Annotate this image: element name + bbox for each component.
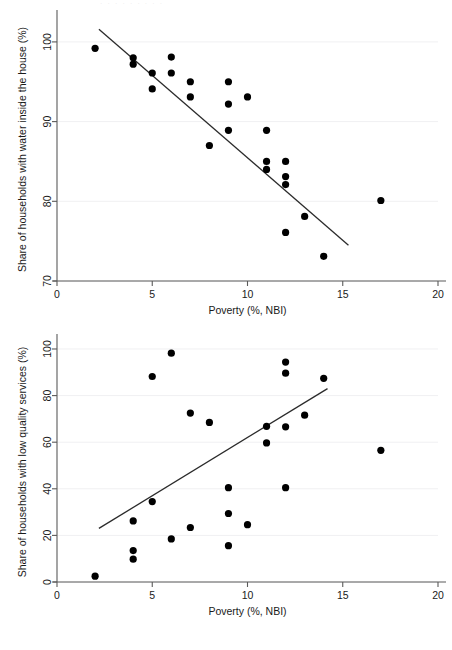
data-point xyxy=(377,197,384,204)
data-point xyxy=(301,412,308,419)
x-tick-label: 15 xyxy=(337,589,349,601)
data-point xyxy=(301,213,308,220)
x-tick-label: 5 xyxy=(149,288,155,300)
y-tick-label: 0 xyxy=(41,579,53,585)
y-axis-title: Share of households with low quality ser… xyxy=(16,347,28,578)
data-point xyxy=(263,127,270,134)
y-tick-label: 90 xyxy=(41,116,53,128)
data-point xyxy=(282,158,289,165)
x-tick-label: 20 xyxy=(432,288,444,300)
y-tick-label: 80 xyxy=(41,195,53,207)
chart-panel-water-inside-house: 70809010005101520Poverty (%, NBI)Share o… xyxy=(0,0,452,320)
regression-fit-line xyxy=(99,29,349,245)
data-point xyxy=(149,498,156,505)
data-point xyxy=(225,510,232,517)
data-point xyxy=(377,447,384,454)
data-point xyxy=(225,127,232,134)
data-point xyxy=(168,69,175,76)
data-point xyxy=(187,93,194,100)
data-points xyxy=(92,350,385,580)
data-point xyxy=(282,423,289,430)
data-point xyxy=(282,229,289,236)
data-point xyxy=(168,53,175,60)
y-tick-label: 40 xyxy=(41,483,53,495)
x-tick-label: 10 xyxy=(242,589,254,601)
data-point xyxy=(282,181,289,188)
y-axis-title: Share of households with water inside th… xyxy=(16,27,28,272)
x-tick-label: 15 xyxy=(337,288,349,300)
scatter-plot-water-inside-house: 70809010005101520Poverty (%, NBI)Share o… xyxy=(0,0,452,320)
scatter-plot-low-quality-services: 02040608010005101520Poverty (%, NBI)Shar… xyxy=(0,320,452,650)
data-point xyxy=(187,524,194,531)
data-point xyxy=(320,253,327,260)
data-point xyxy=(130,54,137,61)
data-point xyxy=(187,78,194,85)
data-point xyxy=(130,547,137,554)
y-tick-label: 20 xyxy=(41,529,53,541)
y-tick-label: 100 xyxy=(41,340,53,358)
x-tick-label: 20 xyxy=(432,589,444,601)
data-points xyxy=(92,45,385,260)
data-point xyxy=(130,61,137,68)
data-point xyxy=(282,358,289,365)
data-point xyxy=(168,535,175,542)
data-point xyxy=(149,69,156,76)
grid-lines xyxy=(57,42,438,281)
y-tick-label: 100 xyxy=(41,33,53,51)
data-point xyxy=(187,409,194,416)
figure-container: · · · · · · · · · 70809010005101520Pover… xyxy=(0,0,452,650)
data-point xyxy=(149,373,156,380)
data-point xyxy=(225,484,232,491)
y-tick-label: 60 xyxy=(41,436,53,448)
data-point xyxy=(149,85,156,92)
data-point xyxy=(206,419,213,426)
data-point xyxy=(263,423,270,430)
data-point xyxy=(263,166,270,173)
x-tick-label: 5 xyxy=(149,589,155,601)
data-point xyxy=(225,100,232,107)
x-axis-title: Poverty (%, NBI) xyxy=(208,304,286,316)
x-tick-label: 0 xyxy=(54,288,60,300)
data-point xyxy=(168,350,175,357)
data-point xyxy=(92,45,99,52)
regression-fit-line xyxy=(99,389,328,529)
data-point xyxy=(320,375,327,382)
data-point xyxy=(130,517,137,524)
y-tick-label: 80 xyxy=(41,390,53,402)
grid-lines xyxy=(57,349,438,582)
data-point xyxy=(282,484,289,491)
data-point xyxy=(225,78,232,85)
data-point xyxy=(263,439,270,446)
y-tick-label: 70 xyxy=(41,275,53,287)
data-point xyxy=(244,93,251,100)
data-point xyxy=(282,173,289,180)
data-point xyxy=(263,158,270,165)
data-point xyxy=(92,573,99,580)
data-point xyxy=(225,542,232,549)
data-point xyxy=(206,142,213,149)
x-tick-label: 0 xyxy=(54,589,60,601)
x-tick-label: 10 xyxy=(242,288,254,300)
x-axis-title: Poverty (%, NBI) xyxy=(208,605,286,617)
data-point xyxy=(282,370,289,377)
data-point xyxy=(130,556,137,563)
chart-panel-low-quality-services: 02040608010005101520Poverty (%, NBI)Shar… xyxy=(0,320,452,650)
data-point xyxy=(244,521,251,528)
